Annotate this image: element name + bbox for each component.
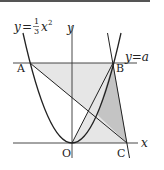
svg-text:1: 1 (34, 17, 39, 26)
point-c-label: C (117, 147, 125, 160)
parabola-diagram: y = 1 3 x 2 y x y=a A B O C (0, 0, 164, 170)
y-axis-label: y (66, 21, 74, 35)
svg-text:=: = (22, 20, 32, 34)
svg-text:y: y (13, 20, 21, 34)
svg-text:2: 2 (48, 19, 52, 27)
svg-text:3: 3 (34, 27, 39, 36)
point-a-label: A (16, 62, 26, 75)
x-axis-label: x (141, 136, 148, 150)
svg-text:x: x (41, 20, 48, 34)
point-b-label: B (116, 62, 124, 75)
point-o-label: O (62, 147, 71, 160)
parabola-equation-label: y = 1 3 x 2 (13, 17, 52, 36)
line-label: y=a (124, 50, 149, 64)
